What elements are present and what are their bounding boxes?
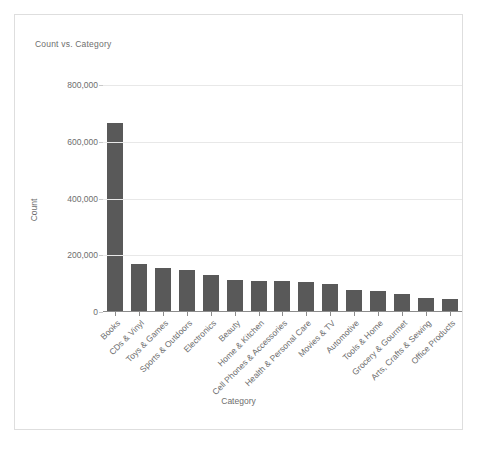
x-tick-mark: [378, 312, 379, 316]
bar[interactable]: [322, 284, 338, 312]
x-tick-mark: [354, 312, 355, 316]
y-tick-mark: [99, 142, 103, 143]
bar[interactable]: [227, 280, 243, 312]
x-tick-mark: [163, 312, 164, 316]
chart-title: Count vs. Category: [35, 39, 111, 49]
chart-card: Count vs. Category BooksCDs & VinylToys …: [14, 14, 463, 430]
x-tick-mark: [187, 312, 188, 316]
y-axis-title: Count: [29, 199, 39, 222]
x-tick-label: Office Products: [409, 318, 457, 366]
y-tick-label: 800,000: [67, 80, 98, 90]
y-tick-mark: [99, 85, 103, 86]
y-tick-label: 200,000: [67, 250, 98, 260]
y-tick-label: 0: [93, 307, 98, 317]
y-tick-label: 600,000: [67, 137, 98, 147]
screenshot-root: Count vs. Category BooksCDs & VinylToys …: [0, 0, 478, 450]
bar[interactable]: [155, 268, 171, 312]
x-tick-mark: [426, 312, 427, 316]
bar[interactable]: [298, 282, 314, 312]
x-axis-title: Category: [15, 396, 462, 406]
y-gridline: [103, 199, 462, 200]
plot-area: BooksCDs & VinylToys & GamesSports & Out…: [103, 85, 462, 312]
bar[interactable]: [203, 275, 219, 312]
bar[interactable]: [370, 291, 386, 312]
y-gridline: [103, 142, 462, 143]
x-tick-mark: [450, 312, 451, 316]
bar[interactable]: [131, 264, 147, 312]
x-axis-line: [103, 311, 462, 312]
x-tick-mark: [330, 312, 331, 316]
x-tick-mark: [306, 312, 307, 316]
bar[interactable]: [251, 281, 267, 312]
bar[interactable]: [346, 290, 362, 312]
x-tick-mark: [259, 312, 260, 316]
y-gridline: [103, 85, 462, 86]
x-tick-mark: [139, 312, 140, 316]
y-tick-label: 400,000: [67, 194, 98, 204]
bar[interactable]: [274, 281, 290, 312]
y-tick-mark: [99, 255, 103, 256]
x-tick-mark: [402, 312, 403, 316]
bar[interactable]: [394, 294, 410, 312]
bar[interactable]: [107, 123, 123, 312]
y-gridline: [103, 255, 462, 256]
x-tick-mark: [115, 312, 116, 316]
bar[interactable]: [179, 270, 195, 312]
x-tick-mark: [282, 312, 283, 316]
y-tick-mark: [99, 312, 103, 313]
x-tick-mark: [235, 312, 236, 316]
x-tick-mark: [211, 312, 212, 316]
bar[interactable]: [418, 298, 434, 312]
y-tick-mark: [99, 199, 103, 200]
